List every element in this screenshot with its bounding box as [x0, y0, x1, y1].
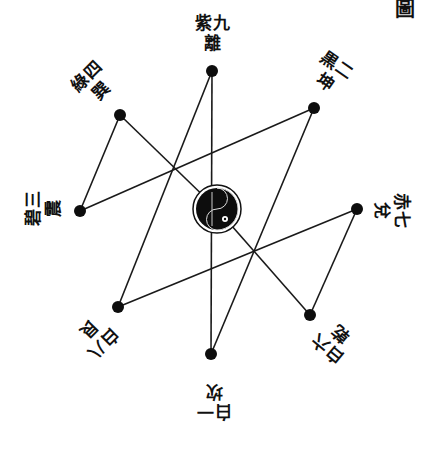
label-char: 紫	[195, 13, 212, 33]
palace-label-li: 九紫離	[195, 13, 230, 53]
palace-dot-kun	[308, 102, 320, 114]
taijitu-icon	[193, 185, 241, 233]
label-char: 震	[43, 199, 63, 218]
label-char: 兌	[372, 202, 392, 219]
palace-label-dui: 七赤兌	[372, 193, 412, 228]
palace-label-kun: 二黒坤	[305, 47, 357, 100]
palace-label-qian: 六白乾	[307, 315, 360, 368]
palace-dot-gen	[112, 301, 124, 313]
label-char: 白	[215, 402, 232, 422]
label-char: 一	[197, 402, 214, 422]
palace-label-kan: 一白坎	[197, 382, 232, 422]
palace-label-zhen: 三碧震	[23, 191, 63, 227]
nine-palace-flying-star-diagram: 一白坎二黒坤三碧震四綠巽六白乾七赤兌八白艮九紫離 圖	[0, 0, 427, 455]
palace-dot-kan	[205, 348, 217, 360]
label-char: 離	[204, 33, 221, 53]
palace-label-xun: 四綠巽	[67, 57, 120, 110]
label-char: 三	[23, 191, 43, 208]
palace-dot-qian	[304, 309, 316, 321]
label-char: 九	[212, 13, 230, 33]
label-char: 坎	[206, 382, 223, 402]
palace-dot-zhen	[74, 205, 86, 217]
label-char: 碧	[23, 209, 43, 227]
label-char: 赤	[392, 193, 412, 210]
label-char: 七	[392, 211, 412, 228]
palace-dot-dui	[351, 203, 363, 215]
path-line-8-9	[118, 71, 212, 307]
palace-dot-li	[206, 65, 218, 77]
palace-dot-xun	[114, 109, 126, 121]
palace-label-gen: 八白艮	[69, 310, 123, 364]
corner-character: 圖	[395, 0, 415, 21]
